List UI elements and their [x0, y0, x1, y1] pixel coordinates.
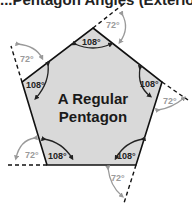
interior-angle-right: 108° [140, 79, 159, 89]
shape-label-line1: A Regular [43, 90, 143, 108]
page-title: ...Pentagon Angles (Exterior) [0, 0, 192, 8]
exterior-angle-bottom-left: 72° [25, 150, 39, 160]
interior-angle-top: 108° [82, 37, 101, 47]
exterior-angle-left: 72° [20, 54, 34, 64]
exterior-angle-bottom-right: 72° [111, 173, 125, 183]
exterior-angle-top: 72° [106, 20, 120, 30]
interior-angle-bottom-left: 108° [48, 151, 67, 161]
shape-label-line2: Pentagon [43, 108, 143, 126]
interior-angle-bottom-right: 108° [117, 151, 136, 161]
exterior-angle-right: 72° [163, 96, 177, 106]
interior-angle-left: 108° [26, 80, 45, 90]
